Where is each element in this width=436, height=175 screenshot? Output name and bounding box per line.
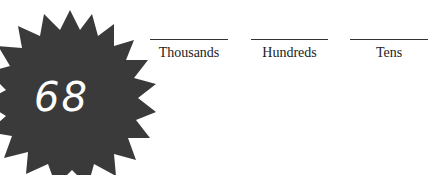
thousands-column: Thousands (150, 39, 228, 61)
hundreds-answer-line[interactable] (251, 39, 328, 40)
tens-label: Tens (350, 45, 428, 61)
badge-number: 68 (34, 74, 89, 120)
thousands-answer-line[interactable] (150, 39, 228, 40)
hundreds-label: Hundreds (251, 45, 328, 61)
thousands-label: Thousands (150, 45, 228, 61)
tens-column: Tens (350, 39, 428, 61)
hundreds-column: Hundreds (251, 39, 328, 61)
tens-answer-line[interactable] (350, 39, 428, 40)
